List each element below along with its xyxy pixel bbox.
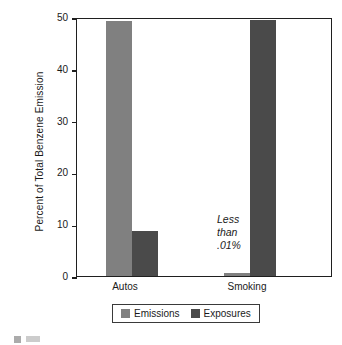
artifact-line — [26, 336, 40, 342]
legend: Emissions Exposures — [112, 304, 260, 323]
bar-smoking-emissions — [224, 273, 250, 276]
x-axis-label-smoking: Smoking — [204, 281, 290, 292]
y-tick-label: 20 — [57, 167, 68, 178]
bar-autos-exposures — [132, 231, 158, 276]
y-axis-title: Percent of Total Benzene Emission — [34, 27, 45, 277]
y-tick-mark — [72, 70, 77, 71]
y-tick-label: 30 — [57, 116, 68, 127]
cropped-page-artifact — [14, 336, 40, 343]
y-tick-label: 0 — [62, 271, 68, 282]
y-tick-mark — [72, 277, 77, 278]
annotation-line-3: .01% — [217, 239, 241, 251]
y-tick-mark — [72, 18, 77, 19]
bar-autos-emissions — [106, 21, 132, 276]
legend-item-exposures: Exposures — [191, 308, 251, 319]
artifact-square-icon — [14, 336, 21, 343]
bar-smoking-exposures — [250, 20, 276, 276]
y-tick-label: 50 — [57, 12, 68, 23]
plot-area: 50403020100 Lessthan.01% — [76, 18, 332, 277]
legend-item-emissions: Emissions — [121, 308, 180, 319]
legend-label-emissions: Emissions — [134, 308, 180, 319]
y-tick-mark — [72, 122, 77, 123]
less-than-annotation: Lessthan.01% — [217, 213, 241, 252]
legend-label-exposures: Exposures — [204, 308, 251, 319]
annotation-line-1: Less — [217, 213, 239, 225]
x-axis-label-autos: Autos — [82, 281, 168, 292]
legend-swatch-exposures-icon — [191, 309, 200, 318]
y-tick-mark — [72, 174, 77, 175]
benzene-emission-bar-chart: Percent of Total Benzene Emission 504030… — [0, 0, 342, 345]
y-tick-label: 40 — [57, 64, 68, 75]
y-tick-label: 10 — [57, 219, 68, 230]
legend-swatch-emissions-icon — [121, 309, 130, 318]
annotation-line-2: than — [217, 226, 237, 238]
y-tick-mark — [72, 226, 77, 227]
